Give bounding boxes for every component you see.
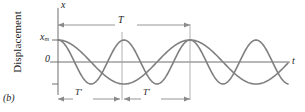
arrowhead-left-Tprime-right bbox=[124, 97, 130, 102]
arrowhead-right-Tprime-left bbox=[114, 97, 120, 102]
arrowhead-left-Tprime-left bbox=[58, 97, 64, 102]
arrowhead-right-T bbox=[184, 22, 190, 27]
dimension-Tprime-right-group bbox=[124, 92, 190, 105]
tick-label-amplitude: xm bbox=[40, 31, 49, 42]
arrowhead-left-T bbox=[58, 22, 64, 27]
figure-displacement-vs-time: Displacement (b) bbox=[0, 0, 305, 112]
dimension-label-T: T bbox=[118, 14, 124, 25]
axis-label-t: t bbox=[292, 55, 295, 66]
dimension-Tprime-left-group bbox=[58, 92, 120, 105]
tick-label-amplitude-subscript: m bbox=[44, 35, 48, 42]
arrowhead-right-Tprime-right bbox=[184, 97, 190, 102]
dimension-T-group bbox=[58, 18, 190, 32]
dimension-label-Tprime-right: T′ bbox=[143, 87, 150, 97]
tick-label-zero: 0 bbox=[45, 53, 50, 64]
dimension-label-Tprime-left: T′ bbox=[75, 87, 82, 97]
axis-label-x: x bbox=[61, 0, 65, 10]
